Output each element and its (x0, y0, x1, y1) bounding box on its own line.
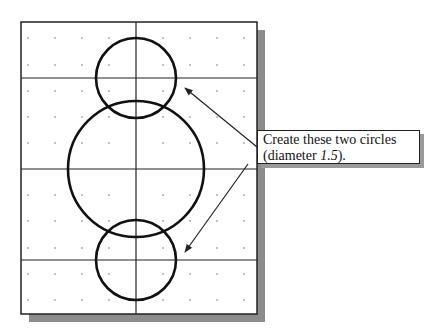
grid-dot (216, 299, 218, 301)
grid-dot (162, 116, 164, 118)
grid-dot (54, 299, 56, 301)
grid-dot (54, 247, 56, 249)
grid-dot (216, 194, 218, 196)
grid-dot (189, 273, 191, 275)
grid-dot (162, 64, 164, 66)
grid-dot (81, 247, 83, 249)
grid-dot (243, 273, 245, 275)
grid-dot (108, 90, 110, 92)
grid-dot (54, 116, 56, 118)
grid-dot (54, 273, 56, 275)
grid-dot (81, 194, 83, 196)
grid-dot (81, 116, 83, 118)
callout-note: Create these two circles (diameter 1.5). (257, 130, 420, 164)
grid-dot (54, 64, 56, 66)
grid-dot (81, 37, 83, 39)
grid-dot (81, 142, 83, 144)
grid-dot (243, 64, 245, 66)
grid-dot (189, 194, 191, 196)
grid-dot (108, 247, 110, 249)
grid-dot (54, 142, 56, 144)
grid-dot (81, 90, 83, 92)
grid-dot (162, 142, 164, 144)
grid-dot (216, 90, 218, 92)
grid-dot (54, 37, 56, 39)
grid-dot (216, 64, 218, 66)
grid-dot (108, 194, 110, 196)
grid-dot (216, 37, 218, 39)
grid-dot (243, 116, 245, 118)
callout-line-1: Create these two circles (263, 132, 419, 148)
grid-dot (54, 194, 56, 196)
drawing-frame (21, 22, 257, 314)
grid-dot (189, 64, 191, 66)
grid-dot (27, 64, 29, 66)
grid-dot (27, 299, 29, 301)
grid-dot (27, 37, 29, 39)
grid-dot (189, 37, 191, 39)
grid-dot (27, 116, 29, 118)
grid-dot (189, 116, 191, 118)
grid-dot (243, 194, 245, 196)
grid-dot (243, 220, 245, 222)
grid-dot (243, 90, 245, 92)
grid-dot (216, 273, 218, 275)
drawing-canvas (0, 0, 442, 336)
grid-dot (162, 194, 164, 196)
grid-dot (54, 220, 56, 222)
grid-dot (162, 90, 164, 92)
callout-line-2: (diameter 1.5). (263, 148, 419, 164)
grid-dot (108, 116, 110, 118)
grid-dot (243, 142, 245, 144)
grid-dot (54, 90, 56, 92)
grid-dot (189, 220, 191, 222)
grid-dot (108, 220, 110, 222)
grid-dot (27, 90, 29, 92)
frame-rect (21, 22, 257, 314)
grid-dot (162, 299, 164, 301)
grid-dot (27, 220, 29, 222)
diameter-value: 1.5 (320, 148, 338, 163)
grid-dot (108, 299, 110, 301)
grid-dot (108, 142, 110, 144)
grid-dot (243, 37, 245, 39)
grid-dot (189, 299, 191, 301)
grid-dot (81, 273, 83, 275)
grid-dot (189, 247, 191, 249)
grid-dot (108, 64, 110, 66)
grid-dot (162, 273, 164, 275)
grid-dot (27, 142, 29, 144)
grid-dot (243, 299, 245, 301)
grid-dot (162, 247, 164, 249)
grid-dot (27, 247, 29, 249)
grid-dot (108, 37, 110, 39)
grid-dot (216, 220, 218, 222)
grid-dot (189, 142, 191, 144)
grid-dot (216, 247, 218, 249)
grid-dot (162, 37, 164, 39)
grid-dot (27, 273, 29, 275)
grid-dot (243, 247, 245, 249)
grid-dot (216, 116, 218, 118)
grid-dot (108, 273, 110, 275)
grid-dot (216, 142, 218, 144)
grid-dot (81, 220, 83, 222)
grid-dot (162, 220, 164, 222)
grid-dot (81, 299, 83, 301)
grid-dot (27, 194, 29, 196)
grid-dot (81, 64, 83, 66)
